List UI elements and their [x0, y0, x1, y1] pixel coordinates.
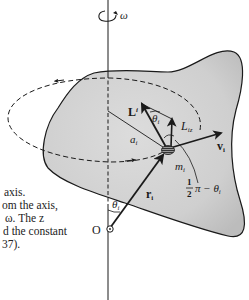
- svg-text:1: 1: [187, 177, 192, 187]
- mass-particle: [162, 146, 175, 155]
- angular-momentum-Lz: [171, 119, 172, 147]
- rigid-body-shape: [43, 51, 244, 237]
- rotation-arrow-icon: [99, 11, 116, 21]
- omega-label: ω: [120, 9, 128, 21]
- circular-path-arrow-top: [56, 80, 64, 81]
- origin-label: O: [92, 223, 101, 237]
- svg-text:π − θi: π − θi: [195, 182, 221, 196]
- paragraph-fragment-2: om the axis,: [2, 199, 58, 212]
- rigid-body-rotation-figure: ω ai ri θi O Li Liz θi vi mi: [0, 0, 249, 300]
- paragraph-fragment-1: axis.: [4, 186, 25, 199]
- rotation-arrowhead-icon: [113, 11, 118, 15]
- paragraph-fragment-3: ω. The z: [5, 212, 44, 225]
- svg-text:2: 2: [187, 189, 192, 199]
- origin-dot: [109, 228, 111, 230]
- paragraph-fragment-4: d the constant: [3, 225, 67, 238]
- paragraph-fragment-5: 37).: [2, 238, 20, 251]
